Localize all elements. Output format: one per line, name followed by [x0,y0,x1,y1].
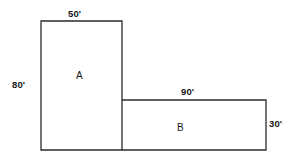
l-shape-outline-path [41,21,266,150]
region-label-a: A [76,71,83,81]
l-shape-outline-svg [0,0,299,163]
geometry-diagram-canvas: 50' 80' 90' 30' A B [0,0,299,163]
dimension-label-left-a: 80' [12,80,25,90]
region-label-b: B [177,123,184,133]
dimension-label-top-b: 90' [181,87,194,97]
dimension-label-right-b: 30' [269,119,282,129]
dimension-label-top-a: 50' [68,9,81,19]
